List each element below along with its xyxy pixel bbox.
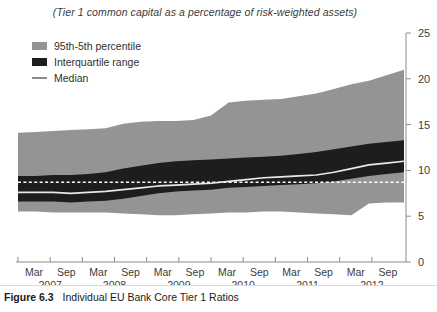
caption-divider (0, 285, 437, 286)
figure-caption: Figure 6.3Individual EU Bank Core Tier 1… (4, 291, 239, 303)
y-tick-label: 5 (418, 210, 424, 222)
legend-item-median: Median (32, 70, 141, 85)
legend-label-median: Median (54, 72, 88, 84)
x-tick-label: Mar (25, 266, 44, 278)
legend-swatch-outer-icon (32, 42, 47, 50)
y-tick-label: 15 (418, 119, 430, 131)
legend-swatch-inner-icon (32, 58, 47, 66)
legend-label-inner: Interquartile range (54, 56, 139, 68)
x-tick-label: Sep (314, 266, 333, 278)
x-tick-label: Sep (250, 266, 269, 278)
y-tick-label: 20 (418, 73, 430, 85)
legend-item-inner: Interquartile range (32, 54, 141, 69)
x-axis: MarSepMarSepMarSepMarSepMarSepMarSep2007… (16, 257, 406, 285)
chart-legend: 95th-5th percentile Interquartile range … (32, 38, 141, 86)
x-tick-label: Mar (154, 266, 173, 278)
x-tick-label: Mar (89, 266, 108, 278)
figure-caption-text: Individual EU Bank Core Tier 1 Ratios (63, 291, 239, 303)
x-tick-label: Mar (282, 266, 301, 278)
x-tick-label: Sep (379, 266, 398, 278)
x-tick-label: Sep (121, 266, 140, 278)
y-tick-label: 10 (418, 164, 430, 176)
x-tick-label: Sep (57, 266, 76, 278)
x-tick-label: Mar (347, 266, 366, 278)
legend-label-outer: 95th-5th percentile (54, 40, 141, 52)
y-axis: 0510152025 (406, 27, 430, 268)
y-tick-label: 0 (418, 256, 424, 268)
legend-swatch-median-icon (32, 74, 47, 82)
figure-container: (Tier 1 common capital as a percentage o… (0, 0, 437, 312)
x-tick-label: Mar (218, 266, 237, 278)
x-tick-label: Sep (186, 266, 205, 278)
chart-series-group (18, 70, 404, 216)
figure-caption-label: Figure 6.3 (4, 291, 54, 303)
y-tick-label: 25 (418, 27, 430, 39)
legend-item-outer: 95th-5th percentile (32, 38, 141, 53)
